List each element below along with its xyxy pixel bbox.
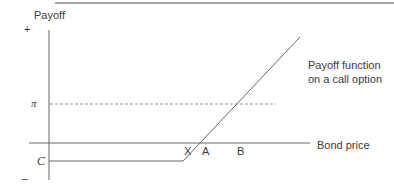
point-a-label: A	[202, 146, 209, 157]
c-label: C	[37, 155, 45, 167]
x-axis-label: Bond price	[317, 140, 370, 151]
point-b-label: B	[237, 146, 244, 157]
payoff-line	[183, 37, 300, 161]
y-axis-label: Payoff	[34, 10, 65, 21]
pi-label: π	[31, 98, 37, 109]
plus-sign: +	[24, 24, 30, 35]
payoff-diagram	[0, 0, 394, 188]
curve-label-line2: on a call option	[308, 74, 382, 85]
curve-label-line1: Payoff function	[308, 60, 381, 71]
point-x-label: X	[184, 146, 191, 157]
minus-sign: –	[22, 173, 28, 184]
